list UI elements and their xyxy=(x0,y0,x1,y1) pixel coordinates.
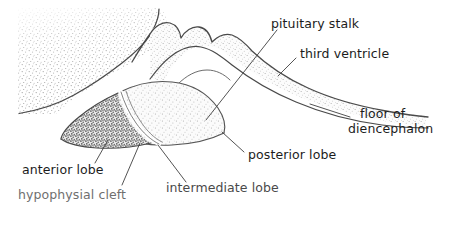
label-intermediate-lobe: intermediate lobe xyxy=(166,180,279,195)
leader-hypophysial-cleft xyxy=(122,143,140,185)
label-pituitary-stalk: pituitary stalk xyxy=(271,16,359,31)
label-anterior-lobe: anterior lobe xyxy=(22,162,104,177)
leader-intermediate-lobe xyxy=(158,145,186,182)
leader-posterior-lobe xyxy=(222,132,244,152)
anatomy-figure: pituitary stalk third ventricle floor of… xyxy=(0,0,460,231)
label-floor-of-diencephalon-line2: diencephalon xyxy=(348,121,433,136)
label-third-ventricle: third ventricle xyxy=(300,46,389,61)
label-floor-of-diencephalon-line1: floor of xyxy=(360,106,405,121)
leader-third-ventricle xyxy=(278,58,296,76)
label-hypophysial-cleft: hypophysial cleft xyxy=(18,187,126,202)
label-posterior-lobe: posterior lobe xyxy=(248,147,336,162)
